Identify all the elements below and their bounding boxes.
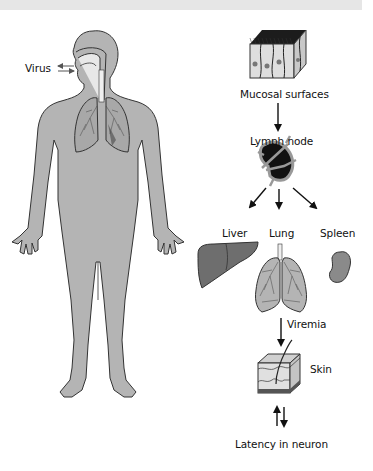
diagram-graphics: [0, 0, 373, 471]
latency-label: Latency in neuron: [235, 438, 328, 450]
skin-section-icon: [258, 340, 300, 393]
lung-label: Lung: [269, 227, 294, 239]
liver-label: Liver: [222, 227, 247, 239]
lung-icon: [255, 244, 306, 312]
mucosal-surfaces-label: Mucosal surfaces: [240, 88, 329, 100]
human-body-icon: [12, 31, 184, 397]
diagram: Virus Mucosal surfaces Lymph node Liver …: [0, 0, 373, 471]
liver-icon: [198, 242, 258, 288]
skin-label: Skin: [310, 363, 332, 375]
spleen-icon: [329, 252, 350, 283]
virus-label: Virus: [25, 62, 51, 74]
mucosal-epithelium-icon: [250, 30, 306, 78]
spleen-label: Spleen: [320, 227, 355, 239]
viremia-label: Viremia: [287, 318, 326, 330]
lymph-node-label: Lymph node: [250, 135, 313, 147]
